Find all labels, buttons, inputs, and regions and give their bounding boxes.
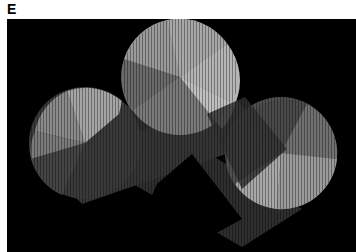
micrograph-image (7, 19, 356, 252)
micrograph-svg (7, 19, 356, 252)
left-circle-pad (29, 87, 141, 199)
panel-label: E (7, 2, 16, 16)
